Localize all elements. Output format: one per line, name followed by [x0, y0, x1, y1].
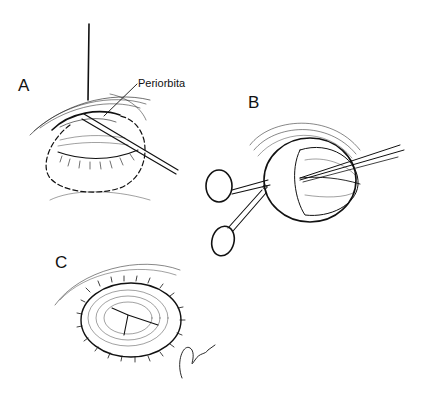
periorbita-callout: Periorbita [138, 77, 185, 89]
panel-a-drawing [30, 24, 178, 200]
panel-label-b: B [248, 93, 259, 113]
signature-scribble [180, 345, 215, 378]
illustration-drawing [0, 0, 428, 393]
panel-c-drawing [55, 264, 215, 378]
surgical-illustration: A B C Periorbita [0, 0, 428, 393]
panel-label-a: A [18, 76, 29, 96]
panel-label-c: C [55, 253, 67, 273]
panel-b-drawing [206, 123, 404, 258]
